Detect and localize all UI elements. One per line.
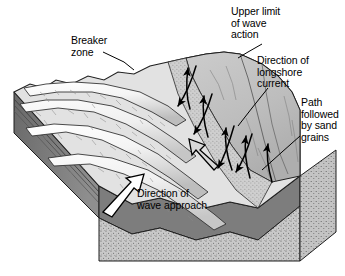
block-right-side-face — [300, 150, 336, 261]
label-upper-limit-of-wave-action: Upper limit of wave action — [231, 6, 280, 41]
leader-breaker-zone — [103, 52, 134, 70]
beach-block-diagram — [0, 0, 345, 276]
label-direction-of-wave-approach: Direction of wave approach — [137, 188, 207, 211]
label-breaker-zone: Breaker zone — [71, 35, 107, 58]
diagram-root: Breaker zone Upper limit of wave action … — [0, 0, 345, 276]
label-direction-of-longshore-current: Direction of longshore current — [257, 55, 309, 90]
label-path-followed-by-sand-grains: Path followed by sand grains — [301, 97, 339, 143]
